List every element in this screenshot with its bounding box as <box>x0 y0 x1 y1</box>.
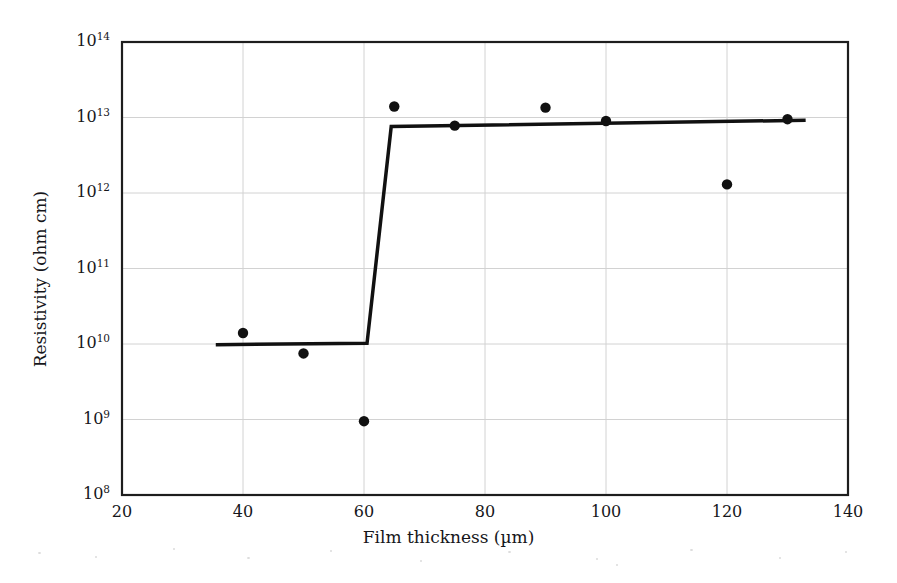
y-tick-label: 1012 <box>76 182 110 201</box>
scan-artifact <box>420 560 422 562</box>
scan-artifact <box>247 557 250 559</box>
data-point-marker <box>389 101 399 111</box>
scan-artifact <box>596 558 598 560</box>
scan-artifact <box>173 548 175 550</box>
y-tick-label: 108 <box>83 484 110 503</box>
resistivity-vs-film-thickness-chart: Film thickness (µm) Resistivity (ohm cm)… <box>0 0 897 583</box>
scan-artifact <box>616 564 618 566</box>
x-tick-label: 120 <box>687 502 767 521</box>
scan-artifact <box>95 556 97 558</box>
x-tick-label: 20 <box>82 502 162 521</box>
x-tick-label: 40 <box>203 502 283 521</box>
y-tick-label: 1010 <box>76 333 110 352</box>
x-tick-label: 100 <box>566 502 646 521</box>
scan-artifact <box>690 549 693 551</box>
y-axis-title: Resistivity (ohm cm) <box>30 119 50 439</box>
x-tick-label: 60 <box>324 502 404 521</box>
data-point-marker <box>722 179 732 189</box>
scan-artifact <box>779 557 781 559</box>
y-tick-label: 1014 <box>76 31 110 50</box>
scan-artifact <box>845 551 847 553</box>
x-axis-title: Film thickness (µm) <box>0 527 897 547</box>
y-tick-label: 1011 <box>76 258 110 277</box>
y-tick-label: 1013 <box>76 107 110 126</box>
scan-artifact <box>508 551 511 553</box>
data-point-marker <box>540 102 550 112</box>
scan-artifact <box>38 552 41 554</box>
data-point-marker <box>298 348 308 358</box>
x-tick-label: 80 <box>445 502 525 521</box>
fit-line <box>216 120 806 344</box>
data-point-marker <box>359 416 369 426</box>
scan-artifact <box>330 550 332 552</box>
x-tick-label: 140 <box>808 502 888 521</box>
y-tick-label: 109 <box>83 409 110 428</box>
data-point-marker <box>238 328 248 338</box>
plot-canvas <box>0 0 897 583</box>
